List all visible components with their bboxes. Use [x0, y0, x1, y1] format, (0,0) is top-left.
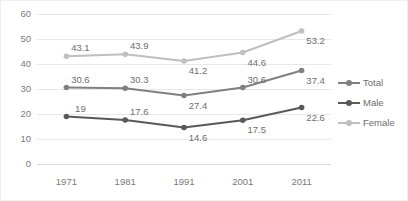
- x-tick-label: 1991: [173, 177, 194, 187]
- x-tick-label: 2001: [232, 177, 253, 187]
- data-point: [299, 105, 305, 111]
- data-label: 43.1: [71, 44, 90, 54]
- data-label: 14.6: [189, 133, 208, 143]
- legend-marker-icon: [338, 118, 360, 128]
- y-tick-label: 20: [1, 109, 31, 119]
- series-line: [66, 31, 301, 61]
- data-label: 44.6: [248, 58, 267, 68]
- y-tick-label: 10: [1, 134, 31, 144]
- data-point: [240, 85, 246, 91]
- gridline: [37, 164, 331, 165]
- data-point: [122, 85, 128, 91]
- x-tick-label: 1981: [115, 177, 136, 187]
- data-point: [122, 117, 128, 123]
- legend-item[interactable]: Total: [338, 73, 406, 93]
- data-label: 30.3: [130, 76, 149, 86]
- data-label: 27.4: [189, 101, 208, 111]
- data-label: 43.9: [130, 42, 149, 52]
- legend-item[interactable]: Male: [338, 93, 406, 113]
- y-tick-label: 50: [1, 34, 31, 44]
- series-line: [66, 108, 301, 128]
- data-label: 41.2: [189, 66, 208, 76]
- data-label: 53.2: [306, 36, 325, 46]
- data-point: [181, 58, 187, 64]
- y-tick-label: 60: [1, 9, 31, 19]
- data-point: [122, 51, 128, 57]
- legend: TotalMaleFemale: [338, 73, 406, 133]
- data-point: [240, 117, 246, 123]
- data-label: 30.6: [71, 75, 90, 85]
- y-tick-label: 30: [1, 84, 31, 94]
- legend-label: Male: [363, 98, 384, 108]
- data-label: 19: [75, 104, 86, 114]
- legend-marker-icon: [338, 98, 360, 108]
- data-point: [64, 53, 70, 59]
- data-point: [64, 85, 70, 91]
- legend-label: Female: [363, 118, 395, 128]
- x-tick-label: 1971: [56, 177, 77, 187]
- data-label: 17.6: [130, 107, 149, 117]
- legend-item[interactable]: Female: [338, 113, 406, 133]
- y-tick-label: 0: [1, 159, 31, 169]
- series-layer: [37, 14, 331, 164]
- legend-marker-icon: [338, 78, 360, 88]
- data-point: [64, 114, 70, 120]
- legend-label: Total: [363, 78, 383, 88]
- line-chart: 6050403020100 30.630.327.430.637.41917.6…: [0, 0, 408, 201]
- data-point: [299, 68, 305, 74]
- data-point: [240, 50, 246, 56]
- y-tick-label: 40: [1, 59, 31, 69]
- data-label: 22.6: [306, 113, 325, 123]
- data-label: 17.5: [248, 126, 267, 136]
- data-label: 30.6: [248, 75, 267, 85]
- data-point: [181, 125, 187, 131]
- series-line: [66, 71, 301, 96]
- data-point: [181, 93, 187, 99]
- x-tick-label: 2011: [291, 177, 311, 187]
- data-point: [299, 28, 305, 34]
- plot-area: 30.630.327.430.637.41917.614.617.522.643…: [37, 14, 331, 164]
- data-label: 37.4: [306, 76, 325, 86]
